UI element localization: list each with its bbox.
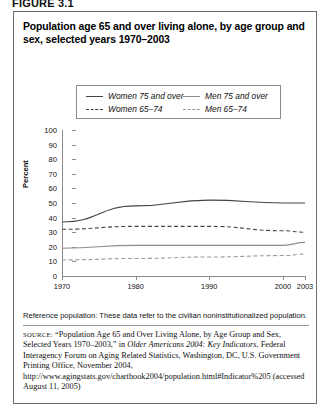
series-line [62, 242, 305, 248]
legend-line-dashed-mid-icon [183, 109, 200, 110]
y-tick-label: 100 [44, 126, 57, 135]
x-tick-label: 2003 [297, 282, 313, 291]
x-tick-mark [62, 276, 63, 280]
chart-title: Population age 65 and over living alone,… [23, 20, 307, 46]
x-tick-mark [209, 276, 210, 280]
legend-line-dashed-dark-icon [86, 109, 103, 110]
reference-population-note: Reference population: These data refer t… [23, 311, 309, 321]
x-tick-mark [305, 276, 306, 280]
y-tick-label: 30 [49, 228, 57, 237]
legend-label: Men 65–74 [205, 104, 247, 114]
y-axis-ticks: 0102030405060708090100 [37, 130, 57, 276]
x-axis-ticks: 19701980199020002003 [62, 276, 305, 292]
x-tick-label: 2000 [275, 282, 291, 291]
figure-page: FIGURE 3.1 Population age 65 and over li… [0, 0, 329, 417]
legend-item-men-65-74: Men 65–74 [183, 104, 247, 114]
x-tick-mark [283, 276, 284, 280]
legend-item-women-65-74: Women 65–74 [86, 104, 162, 114]
figure-box: Population age 65 and over living alone,… [13, 11, 317, 404]
series-line [62, 254, 305, 260]
x-tick-mark [136, 276, 137, 280]
y-tick-label: 60 [49, 184, 57, 193]
source-citation: SOURCE: “Population Age 65 and Over Livi… [23, 330, 311, 392]
y-tick-label: 50 [49, 199, 57, 208]
legend-label: Women 75 and over [108, 91, 183, 101]
legend-item-men-75-over: Men 75 and over [183, 91, 268, 101]
y-tick-label: 40 [49, 213, 57, 222]
line-series-svg [62, 130, 305, 276]
x-tick-label: 1980 [127, 282, 143, 291]
x-tick-label: 1990 [201, 282, 217, 291]
figure-number: FIGURE 3.1 [12, 0, 74, 9]
y-tick-label: 90 [49, 140, 57, 149]
series-line [62, 226, 305, 232]
y-tick-label: 20 [49, 242, 57, 251]
legend-label: Women 65–74 [108, 104, 162, 114]
series-lines [62, 130, 305, 276]
chart-legend: Women 75 and over Men 75 and over Women … [76, 85, 281, 119]
legend-item-women-75-over: Women 75 and over [86, 91, 183, 101]
legend-line-solid-dark-icon [86, 96, 103, 97]
chart-plot-area: Percent 0102030405060708090100 197019801… [23, 130, 309, 302]
legend-line-solid-mid-icon [183, 96, 200, 97]
x-tick-label: 1970 [54, 282, 70, 291]
y-tick-label: 0 [53, 272, 57, 281]
y-tick-label: 80 [49, 155, 57, 164]
y-tick-label: 70 [49, 169, 57, 178]
series-line [62, 200, 305, 222]
source-publication-title: Older Americans 2004: Key Indicators [127, 340, 256, 349]
divider [23, 325, 309, 326]
y-tick-label: 10 [49, 257, 57, 266]
source-label: SOURCE: [23, 331, 53, 338]
legend-label: Men 75 and over [205, 91, 268, 101]
y-axis-label: Percent [21, 160, 30, 188]
